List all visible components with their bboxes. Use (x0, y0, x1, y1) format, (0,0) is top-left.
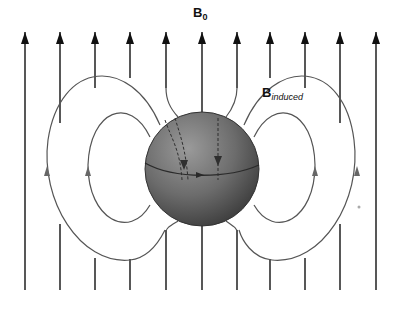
b0-label: B0 (193, 5, 207, 22)
left-inner-loop (88, 113, 150, 223)
binduced-label: Binduced (262, 85, 303, 102)
field-arrowheads (21, 32, 380, 44)
sphere (145, 112, 259, 226)
right-inner-loop (254, 113, 315, 223)
stray-dot (358, 206, 361, 209)
field-diagram (0, 0, 400, 312)
